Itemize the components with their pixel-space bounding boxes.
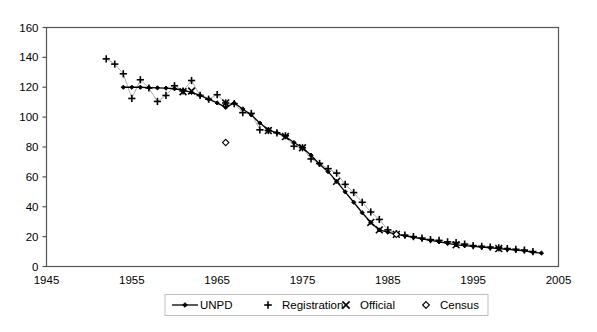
x-tick-label: 2005 — [546, 274, 572, 286]
x-tick-label: 1955 — [119, 274, 145, 286]
y-tick-label: 160 — [19, 22, 38, 34]
legend-label: UNPD — [200, 299, 233, 311]
x-tick-label: 1965 — [204, 274, 230, 286]
chart-legend: UNPDRegistrationOfficialCensus — [165, 295, 488, 316]
x-tick-label: 1945 — [34, 274, 60, 286]
y-tick-label: 120 — [19, 81, 38, 93]
x-tick-label: 1975 — [290, 274, 316, 286]
y-tick-label: 0 — [32, 261, 38, 273]
y-tick-label: 140 — [19, 51, 38, 63]
y-tick-label: 40 — [26, 201, 39, 213]
legend-label: Registration — [282, 299, 343, 311]
y-tick-label: 60 — [26, 171, 39, 183]
legend-label: Census — [440, 299, 479, 311]
x-tick-label: 1985 — [375, 274, 401, 286]
y-tick-label: 100 — [19, 111, 38, 123]
line-chart: 020406080100120140160 194519551965197519… — [0, 0, 597, 332]
chart-container: 020406080100120140160 194519551965197519… — [0, 0, 597, 332]
legend-label: Official — [360, 299, 395, 311]
y-tick-label: 80 — [26, 141, 39, 153]
y-tick-label: 20 — [26, 231, 39, 243]
x-tick-label: 1995 — [460, 274, 486, 286]
